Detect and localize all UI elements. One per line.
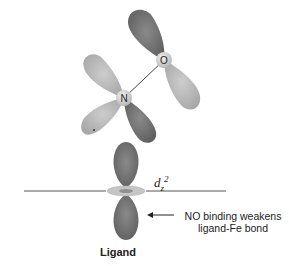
o-lobe-lower [164, 60, 200, 110]
annotation-line-1: NO binding weakens [178, 210, 288, 222]
n-lobe-upper-left [83, 54, 124, 98]
n-lobe-lower-right [124, 98, 156, 143]
n-lobe-lower-left [81, 98, 124, 135]
left-arrow-icon [147, 212, 174, 218]
ligand-caption: Ligand [100, 246, 136, 258]
orbital-superscript: 2 [164, 174, 169, 184]
annotation-line-2: ligand-Fe bond [178, 222, 288, 234]
n-o-bond [124, 60, 164, 98]
dz2-orbital [107, 142, 145, 240]
annotation-text: NO binding weakens ligand-Fe bond [178, 210, 288, 234]
dot-marker [93, 129, 95, 131]
dz2-ring-inner [119, 189, 133, 193]
dz2-orbital-label: dz2 [154, 174, 169, 193]
nitrogen-label: N [120, 93, 127, 104]
dz2-lobe-upper [114, 142, 139, 188]
dz2-lobe-lower [114, 194, 139, 240]
orbital-subscript: z [161, 183, 165, 193]
oxygen-label: O [160, 55, 168, 66]
o-lobe-upper [128, 10, 164, 60]
